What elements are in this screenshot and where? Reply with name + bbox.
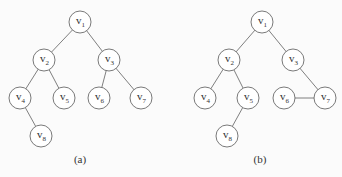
node-a-v8: v8 bbox=[30, 125, 52, 147]
node-a-v6: v6 bbox=[88, 87, 110, 109]
node-b-v2: v2 bbox=[218, 49, 240, 71]
node-a-v2: v2 bbox=[33, 49, 55, 71]
node-a-v1: v1 bbox=[69, 11, 91, 33]
node-b-v3: v3 bbox=[282, 49, 304, 71]
nodes-layer: v1v2v3v4v5v6v7v8v1v2v3v4v5v6v7v8 bbox=[9, 11, 336, 147]
node-a-v4: v4 bbox=[9, 87, 31, 109]
node-b-v5: v5 bbox=[237, 87, 259, 109]
node-b-v6: v6 bbox=[273, 87, 295, 109]
diagram-canvas: v1v2v3v4v5v6v7v8v1v2v3v4v5v6v7v8 (a)(b) bbox=[0, 0, 342, 177]
node-b-v4: v4 bbox=[194, 87, 216, 109]
caption-b: (b) bbox=[254, 153, 267, 166]
edges-layer bbox=[20, 22, 325, 136]
node-b-v8: v8 bbox=[216, 125, 238, 147]
node-b-v7: v7 bbox=[314, 87, 336, 109]
node-a-v3: v3 bbox=[98, 49, 120, 71]
tree-diagram-figure: v1v2v3v4v5v6v7v8v1v2v3v4v5v6v7v8 (a)(b) bbox=[0, 0, 342, 177]
node-a-v7: v7 bbox=[130, 87, 152, 109]
node-a-v5: v5 bbox=[53, 87, 75, 109]
captions-layer: (a)(b) bbox=[74, 153, 267, 166]
node-b-v1: v1 bbox=[251, 11, 273, 33]
caption-a: (a) bbox=[74, 153, 87, 166]
